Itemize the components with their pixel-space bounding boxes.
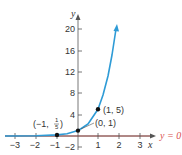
asymptote-label: y = 0 (159, 130, 181, 141)
x-tick-label: 1 (95, 140, 100, 150)
x-tick-label: 3 (137, 140, 142, 150)
y-axis-label: y (70, 8, 76, 19)
x-tick-label: 2 (116, 140, 121, 150)
point-0 (76, 128, 80, 132)
point-label-0: (0, 1) (95, 118, 116, 128)
x-tick-label: −2 (30, 140, 40, 150)
y-tick-label: 16 (65, 46, 75, 56)
point-neg1 (55, 133, 59, 137)
curve-arrow-icon (114, 24, 120, 32)
x-axis-label: x (147, 139, 153, 150)
y-tick-label: 4 (70, 110, 75, 120)
point-label-neg1-den: 5 (55, 124, 59, 130)
y-tick-label: 8 (70, 88, 75, 98)
point-label-neg1-num: 1 (55, 117, 59, 123)
y-tick-label: 20 (65, 24, 75, 34)
x-tick-label: −1 (50, 140, 60, 150)
y-tick-label: −2 (65, 142, 75, 152)
point-label-1: (1, 5) (103, 105, 124, 115)
y-tick-label: 12 (65, 67, 75, 77)
point-1 (96, 107, 100, 111)
point-label-neg1-close: ) (60, 119, 63, 129)
x-tick-label: −3 (10, 140, 20, 150)
point-label-neg1: (−1, (33, 119, 49, 129)
x-axis-arrow-icon (150, 134, 156, 139)
exponential-graph: −3 −2 −1 1 2 3 20 16 12 8 4 −2 y x y = 0… (0, 0, 182, 155)
y-axis-arrow-icon (76, 14, 81, 20)
